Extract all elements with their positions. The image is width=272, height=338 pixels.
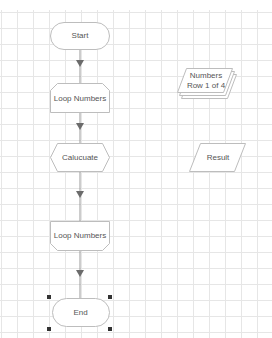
flowchart-svg	[0, 0, 272, 338]
resize-handle-bottom-left[interactable]	[47, 327, 51, 331]
numbers-label: Numbers	[180, 71, 232, 80]
calculate-label: Calucuate	[50, 153, 110, 162]
loop-end-label: Loop Numbers	[50, 231, 110, 240]
arrowhead-icon	[76, 191, 84, 198]
numbers-row-label: Row 1 of 4	[180, 81, 232, 90]
resize-handle-top-left[interactable]	[47, 295, 51, 299]
result-label: Result	[192, 153, 244, 162]
resize-handle-top-right[interactable]	[108, 295, 112, 299]
loop-start-label: Loop Numbers	[50, 94, 110, 103]
arrowhead-icon	[76, 123, 84, 130]
arrowhead-icon	[76, 270, 84, 277]
resize-handle-bottom-right[interactable]	[108, 327, 112, 331]
end-label: End	[52, 308, 109, 317]
start-label: Start	[50, 31, 110, 40]
arrowhead-icon	[76, 60, 84, 67]
